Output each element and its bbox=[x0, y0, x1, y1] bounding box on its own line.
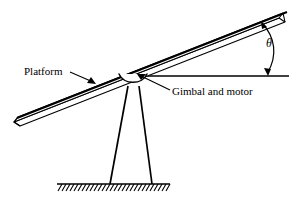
support-leg-left bbox=[110, 86, 128, 184]
support-leg-right bbox=[139, 86, 152, 184]
ground-hatching bbox=[58, 184, 170, 191]
platform-leader bbox=[70, 72, 96, 84]
gimbal-leader-line bbox=[141, 76, 170, 90]
gimbal-and-motor-label: Gimbal and motor bbox=[172, 86, 253, 97]
platform-label: Platform bbox=[24, 66, 63, 77]
platform-gimbal-diagram: Platform Gimbal and motor θ bbox=[0, 0, 297, 201]
angle-theta-label: θ bbox=[266, 37, 272, 49]
diagram-canvas bbox=[0, 0, 297, 201]
angle-arrowhead-bottom bbox=[264, 68, 271, 76]
